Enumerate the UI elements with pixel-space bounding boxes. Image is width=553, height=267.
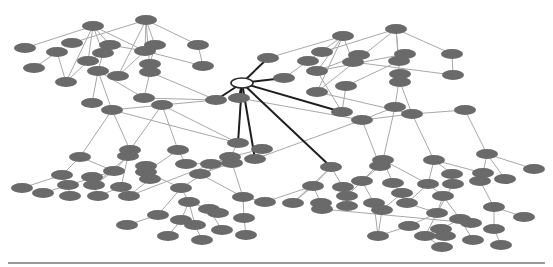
graph-node [51,170,73,180]
graph-node [460,218,482,228]
graph-node [388,56,410,66]
network-diagram [0,0,553,267]
graph-node [469,176,491,186]
graph-node [147,210,169,220]
graph-node [116,220,138,230]
hub-layer [231,78,253,88]
graph-node [175,159,197,169]
graph-node [232,192,254,202]
graph-edge [130,105,162,150]
graph-node [483,202,505,212]
graph-node [178,197,200,207]
graph-edge [25,26,93,48]
graph-node [251,144,273,154]
graph-node [431,242,453,252]
graph-node [320,162,342,172]
graph-node [81,98,103,108]
graph-node [110,182,132,192]
graph-node [371,205,393,215]
graph-node [207,208,229,218]
graph-node [432,191,454,201]
graph-node [14,43,36,53]
graph-node [61,38,83,48]
graph-node [23,63,45,73]
graph-node [103,166,125,176]
graph-node [82,21,104,31]
graph-node [331,107,353,117]
graph-node [151,100,173,110]
graph-node [87,66,109,76]
graph-edge [268,36,343,58]
graph-node [107,71,129,81]
graph-node [336,191,358,201]
node-layer [11,15,545,252]
graph-node [311,204,333,214]
graph-node [118,191,140,201]
graph-node [423,155,445,165]
graph-node [454,105,476,115]
graph-edge [112,110,238,143]
graph-node [59,191,81,201]
graph-node [523,164,545,174]
graph-node [77,56,99,66]
graph-node [513,212,535,222]
graph-node [257,53,279,63]
graph-node [351,176,373,186]
graph-node [235,230,257,240]
graph-edge [383,107,395,160]
graph-svg [0,0,553,267]
graph-edge [112,110,130,150]
graph-node [83,180,105,190]
graph-node [133,93,155,103]
graph-edge [322,29,396,52]
graph-node [134,46,156,56]
graph-node [101,105,123,115]
graph-node [396,198,418,208]
graph-node [483,224,505,234]
graph-node [382,178,404,188]
graph-node [494,174,516,184]
graph-node [342,57,364,67]
graph-node [227,138,249,148]
graph-node [302,181,324,191]
graph-node [332,31,354,41]
graph-node [139,67,161,77]
graph-edge [80,110,112,157]
graph-node [170,183,192,193]
graph-node [233,213,255,223]
graph-node [135,15,157,25]
graph-node [442,70,464,80]
graph-node [391,188,413,198]
graph-node [205,95,227,105]
graph-node [32,188,54,198]
graph-node [398,221,420,231]
graph-node [351,115,373,125]
graph-node [369,161,391,171]
graph-node [117,151,139,161]
graph-node [211,225,233,235]
graph-node [187,40,209,50]
graph-node [55,77,77,87]
graph-node [367,231,389,241]
graph-node [228,93,250,103]
graph-node [184,220,206,230]
graph-edge [72,20,146,43]
graph-node [157,231,179,241]
graph-node [92,48,114,58]
graph-node [282,198,304,208]
graph-node [462,235,484,245]
graph-node [191,235,213,245]
graph-node [385,24,407,34]
graph-node [306,87,328,97]
graph-edge [412,114,434,160]
graph-edge [322,209,471,223]
graph-node [87,191,109,201]
graph-node [426,208,448,218]
graph-node [189,169,211,179]
graph-node [11,183,33,193]
graph-node [441,49,463,59]
graph-node [311,47,333,57]
graph-node [434,231,456,241]
hub-node [231,78,253,88]
graph-edge [255,120,362,159]
